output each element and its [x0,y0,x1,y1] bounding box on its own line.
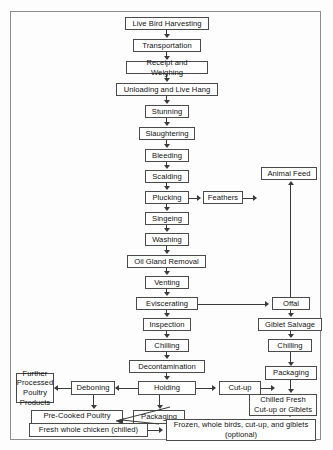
node-washing: Washing [145,233,189,246]
node-feathers: Feathers [203,191,243,204]
node-giblet-salvage: Giblet Salvage [258,318,322,331]
node-unloading-and-live-hang: Unloading and Live Hang [116,83,218,96]
arrowhead-deboning [115,385,119,391]
node-fresh-whole-chicken: Fresh whole chicken (chilled) [29,423,148,437]
node-deboning: Deboning [71,381,115,395]
arrowhead-holding [164,376,170,380]
node-decontamination: Decontamination [129,360,205,373]
arrowhead-packaging-left [157,405,163,409]
arrowhead-unloading [164,78,170,82]
node-packaging-right: Packaging [265,366,317,380]
node-slaughtering: Slaughtering [139,127,195,140]
edge-eviscerating-to-offal [198,304,266,305]
arrowhead-chilled-fresh [288,389,294,393]
arrowhead-pre-cooked [91,405,97,409]
arrowhead-feathers [197,195,201,201]
flowchart-canvas: Live Bird Harvesting Transportation Rece… [0,0,333,450]
node-offal: Offal [272,297,310,310]
node-inspection: Inspection [143,318,191,331]
node-stunning: Stunning [145,105,189,118]
edge-holding-to-deboning [116,388,138,389]
arrowhead-cut-up [212,385,216,391]
arrowhead-chilling [164,334,170,338]
node-eviscerating: Eviscerating [136,297,198,310]
edge-offal-to-animal-feed [290,185,291,297]
node-plucking: Plucking [145,191,189,204]
node-animal-feed: Animal Feed [261,167,317,180]
node-scalding: Scalding [145,170,189,183]
arrowhead-stunning [164,100,170,104]
node-chilling: Chilling [145,339,189,352]
arrowhead-bleeding [164,144,170,148]
node-cut-up: Cut-up [219,381,261,395]
arrowhead-transportation [164,34,170,38]
node-chilled-fresh: Chilled Fresh Cut-up or Giblets [249,394,317,416]
node-chilling-giblets: Chilling [268,339,312,352]
node-singeing: Singeing [145,212,189,225]
arrowhead-packaging-right-from-cutup [271,385,275,391]
node-frozen-products: Frozen, whole birds, cut-up, and giblets… [166,419,316,441]
arrowhead-washing [164,228,170,232]
arrowhead-venting [164,271,170,275]
node-further-processed: Further Processed Poultry Products [16,373,54,403]
node-bleeding: Bleeding [145,149,189,162]
arrowhead-slaughtering [164,122,170,126]
edge-holding-to-cut-up [196,388,213,389]
arrowhead-eviscerating [164,292,170,296]
arrowhead-animal-feed-up [288,181,294,185]
arrowhead-giblet-salvage [288,313,294,317]
node-holding: Holding [138,381,196,395]
node-transportation: Transportation [133,39,201,52]
node-venting: Venting [145,276,189,289]
node-live-bird-harvesting: Live Bird Harvesting [125,17,209,30]
arrowhead-offal [265,301,269,307]
arrowhead-oil-gland-removal [164,250,170,254]
arrowhead-plucking [164,186,170,190]
arrowhead-frozen-products [159,427,163,433]
arrowhead-singeing [164,207,170,211]
node-receipt-and-weighing: Receipt and Weighing [126,61,208,74]
arrowhead-chilling-giblets [288,334,294,338]
node-oil-gland-removal: Oil Gland Removal [127,255,206,268]
arrowhead-further-processed [54,385,58,391]
arrowhead-animal-feed [253,195,257,201]
arrowhead-inspection [164,313,170,317]
arrowhead-scalding [164,165,170,169]
arrowhead-decontamination [164,355,170,359]
